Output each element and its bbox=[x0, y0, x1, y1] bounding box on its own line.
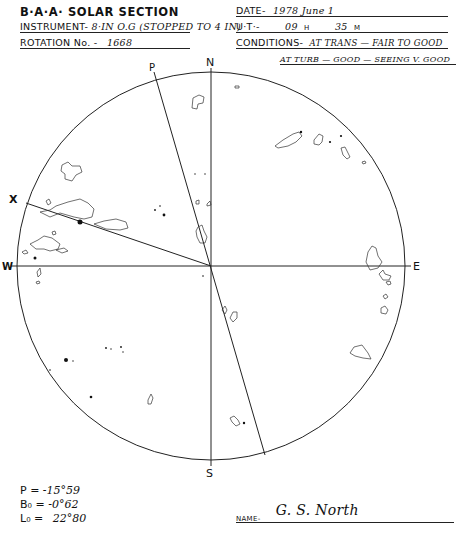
facula bbox=[148, 394, 153, 404]
solar-disk-drawing: N S E W P X bbox=[0, 0, 471, 551]
facula bbox=[52, 231, 56, 235]
facula bbox=[383, 294, 388, 299]
facula bbox=[196, 200, 199, 204]
facula bbox=[381, 306, 388, 314]
x-axis-label: X bbox=[9, 193, 18, 206]
name-row: NAME- G. S. North bbox=[236, 508, 454, 523]
facula bbox=[275, 132, 302, 148]
sunspot bbox=[159, 205, 161, 207]
facula bbox=[37, 268, 41, 277]
west-label: W bbox=[2, 261, 13, 272]
ephemeris-parameters: P = -15°59 B₀ = -0°62 L₀ = 22°80 bbox=[20, 484, 86, 526]
p-angle-row: P = -15°59 bbox=[20, 484, 86, 498]
p-axis-line bbox=[154, 72, 265, 455]
sunspot bbox=[120, 346, 122, 348]
sunspot bbox=[49, 369, 51, 371]
p-axis-label: P bbox=[149, 62, 155, 73]
facula bbox=[235, 86, 239, 88]
north-label: N bbox=[206, 56, 214, 69]
name-label: NAME- bbox=[236, 515, 261, 523]
sunspot bbox=[202, 275, 204, 277]
facula bbox=[192, 95, 204, 109]
facula bbox=[230, 312, 237, 322]
facula bbox=[61, 162, 82, 181]
observer-signature: G. S. North bbox=[276, 502, 359, 518]
sunspot bbox=[110, 348, 111, 349]
b0-row: B₀ = -0°62 bbox=[20, 498, 86, 512]
p-angle-value: -15°59 bbox=[43, 484, 80, 497]
facula bbox=[207, 201, 211, 206]
south-label: S bbox=[206, 467, 213, 480]
sunspot bbox=[34, 257, 37, 260]
sunspot bbox=[204, 173, 205, 174]
sunspot bbox=[243, 422, 245, 424]
sunspots bbox=[34, 131, 343, 424]
solar-features bbox=[22, 86, 391, 426]
facula bbox=[230, 416, 240, 426]
sunspot bbox=[90, 396, 93, 399]
sunspot bbox=[194, 173, 195, 174]
facula bbox=[196, 225, 207, 243]
facula bbox=[36, 281, 40, 284]
facula-large bbox=[40, 199, 94, 219]
facula bbox=[341, 147, 350, 159]
facula bbox=[362, 161, 366, 164]
east-label: E bbox=[413, 260, 420, 273]
sunspot bbox=[122, 351, 123, 352]
facula bbox=[22, 250, 28, 254]
facula bbox=[30, 236, 60, 251]
l0-value: 22°80 bbox=[53, 512, 87, 525]
sunspot bbox=[78, 220, 83, 225]
l0-row: L₀ = 22°80 bbox=[20, 512, 86, 526]
sunspot bbox=[105, 347, 107, 349]
facula bbox=[314, 134, 323, 145]
b0-value: -0°62 bbox=[48, 498, 78, 511]
p-angle-label: P = bbox=[20, 484, 39, 497]
l0-label: L₀ = bbox=[20, 512, 43, 525]
sunspot bbox=[64, 358, 68, 362]
sunspot bbox=[300, 131, 302, 133]
sunspot bbox=[340, 135, 342, 137]
facula bbox=[46, 199, 51, 205]
facula bbox=[386, 281, 391, 285]
sunspot bbox=[163, 214, 166, 217]
b0-label: B₀ = bbox=[20, 498, 45, 511]
sunspot bbox=[72, 360, 73, 361]
sunspot bbox=[154, 209, 156, 211]
sunspot bbox=[329, 141, 331, 143]
facula bbox=[350, 345, 371, 359]
facula bbox=[379, 270, 391, 280]
